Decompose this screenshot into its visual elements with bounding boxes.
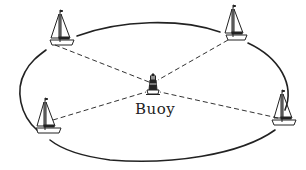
buoy-icon (146, 74, 160, 95)
sailboat-icon (225, 5, 247, 40)
sailboat-icon (272, 90, 296, 125)
buoy-label: Buoy (135, 100, 175, 118)
sailboat-icon (36, 98, 61, 133)
sailboat-icon (50, 10, 74, 45)
race-course-diagram (0, 0, 306, 170)
